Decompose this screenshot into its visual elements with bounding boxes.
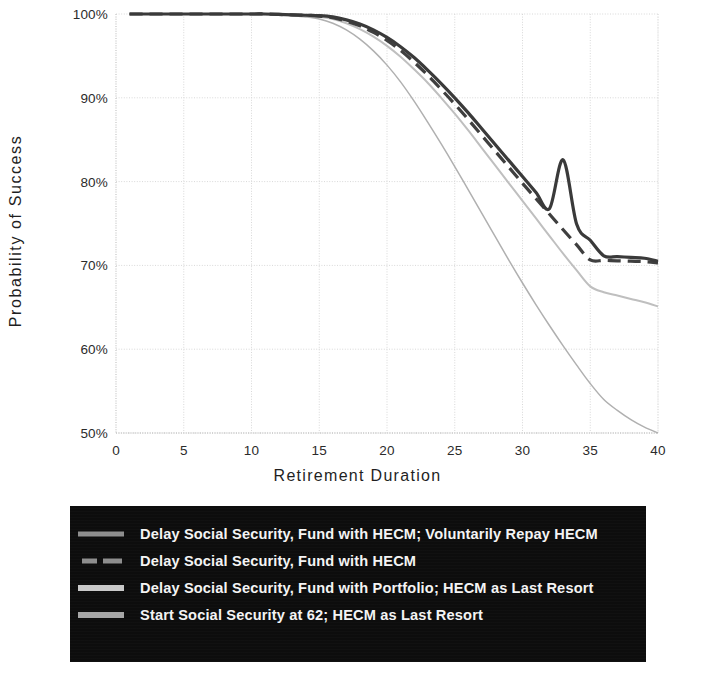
y-axis-label: Probability of Success xyxy=(7,135,25,328)
x-tick-label: 35 xyxy=(583,443,598,458)
y-tick-label: 90% xyxy=(56,90,108,105)
y-tick-label: 100% xyxy=(56,7,108,22)
y-tick-label: 70% xyxy=(56,258,108,273)
y-tick-label: 80% xyxy=(56,174,108,189)
x-tick-label: 25 xyxy=(447,443,462,458)
data-series-line xyxy=(130,14,658,433)
x-axis-label: Retirement Duration xyxy=(0,467,715,485)
legend-swatch-icon xyxy=(78,527,124,541)
x-tick-label: 0 xyxy=(112,443,120,458)
legend-item[interactable]: Delay Social Security, Fund with HECM xyxy=(70,547,646,574)
x-tick-label: 5 xyxy=(180,443,188,458)
legend-item[interactable]: Start Social Security at 62; HECM as Las… xyxy=(70,601,646,628)
y-tick-label: 60% xyxy=(56,342,108,357)
legend-item-label: Delay Social Security, Fund with HECM; V… xyxy=(140,526,598,542)
x-tick-label: 15 xyxy=(312,443,327,458)
legend-item-label: Delay Social Security, Fund with Portfol… xyxy=(140,580,594,596)
legend-swatch-icon xyxy=(78,608,124,622)
legend-swatch-icon xyxy=(78,581,124,595)
y-tick-label: 50% xyxy=(56,426,108,441)
plot-area: 50%60%70%80%90%100% 0510152025303540 xyxy=(0,0,715,500)
legend-item-label: Delay Social Security, Fund with HECM xyxy=(140,553,416,569)
legend-swatch-icon xyxy=(78,554,124,568)
data-series-group xyxy=(130,14,658,433)
data-series-line xyxy=(130,14,658,306)
x-tick-label: 30 xyxy=(515,443,530,458)
legend-item[interactable]: Delay Social Security, Fund with HECM; V… xyxy=(70,520,646,547)
legend-item-label: Start Social Security at 62; HECM as Las… xyxy=(140,607,483,623)
x-tick-label: 20 xyxy=(379,443,394,458)
legend-item[interactable]: Delay Social Security, Fund with Portfol… xyxy=(70,574,646,601)
chart-legend: Delay Social Security, Fund with HECM; V… xyxy=(70,506,646,662)
x-tick-label: 10 xyxy=(244,443,259,458)
chart-figure: 50%60%70%80%90%100% 0510152025303540 Pro… xyxy=(0,0,715,698)
x-tick-label: 40 xyxy=(650,443,665,458)
